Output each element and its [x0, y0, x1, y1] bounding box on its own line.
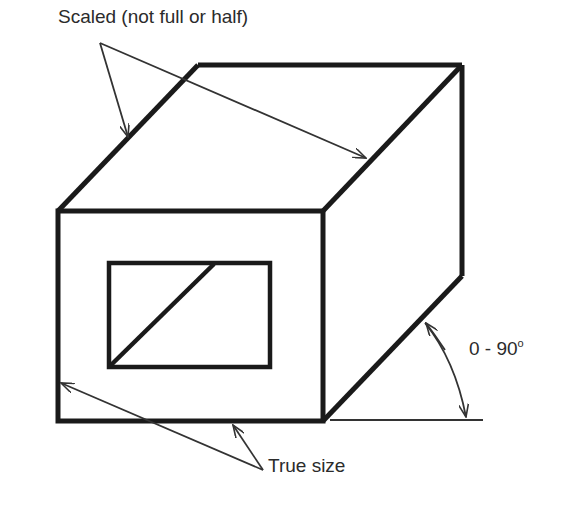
scaled-leader-left [100, 43, 128, 137]
true-size-leader-left [61, 383, 263, 470]
true-size-leaders [61, 383, 263, 470]
window-diagonal [111, 264, 214, 365]
oblique-projection-diagram [0, 0, 578, 511]
window-rect [109, 263, 270, 367]
receding-edge-top-left [58, 65, 198, 211]
angle-arc-arrow-start [426, 323, 445, 350]
scaled-leaders [100, 43, 366, 158]
scaled-label: Scaled (not full or half) [58, 6, 248, 28]
angle-label: 0 - 90o [469, 337, 524, 360]
front-window [109, 263, 270, 367]
receding-edge-top-right [323, 65, 462, 211]
angle-value: 0 - 90 [469, 338, 518, 359]
angle-arc-arrow [425, 323, 466, 417]
true-size-label: True size [268, 455, 345, 477]
degree-symbol: o [518, 337, 524, 349]
scaled-leader-right [100, 43, 366, 158]
front-face [58, 211, 323, 421]
